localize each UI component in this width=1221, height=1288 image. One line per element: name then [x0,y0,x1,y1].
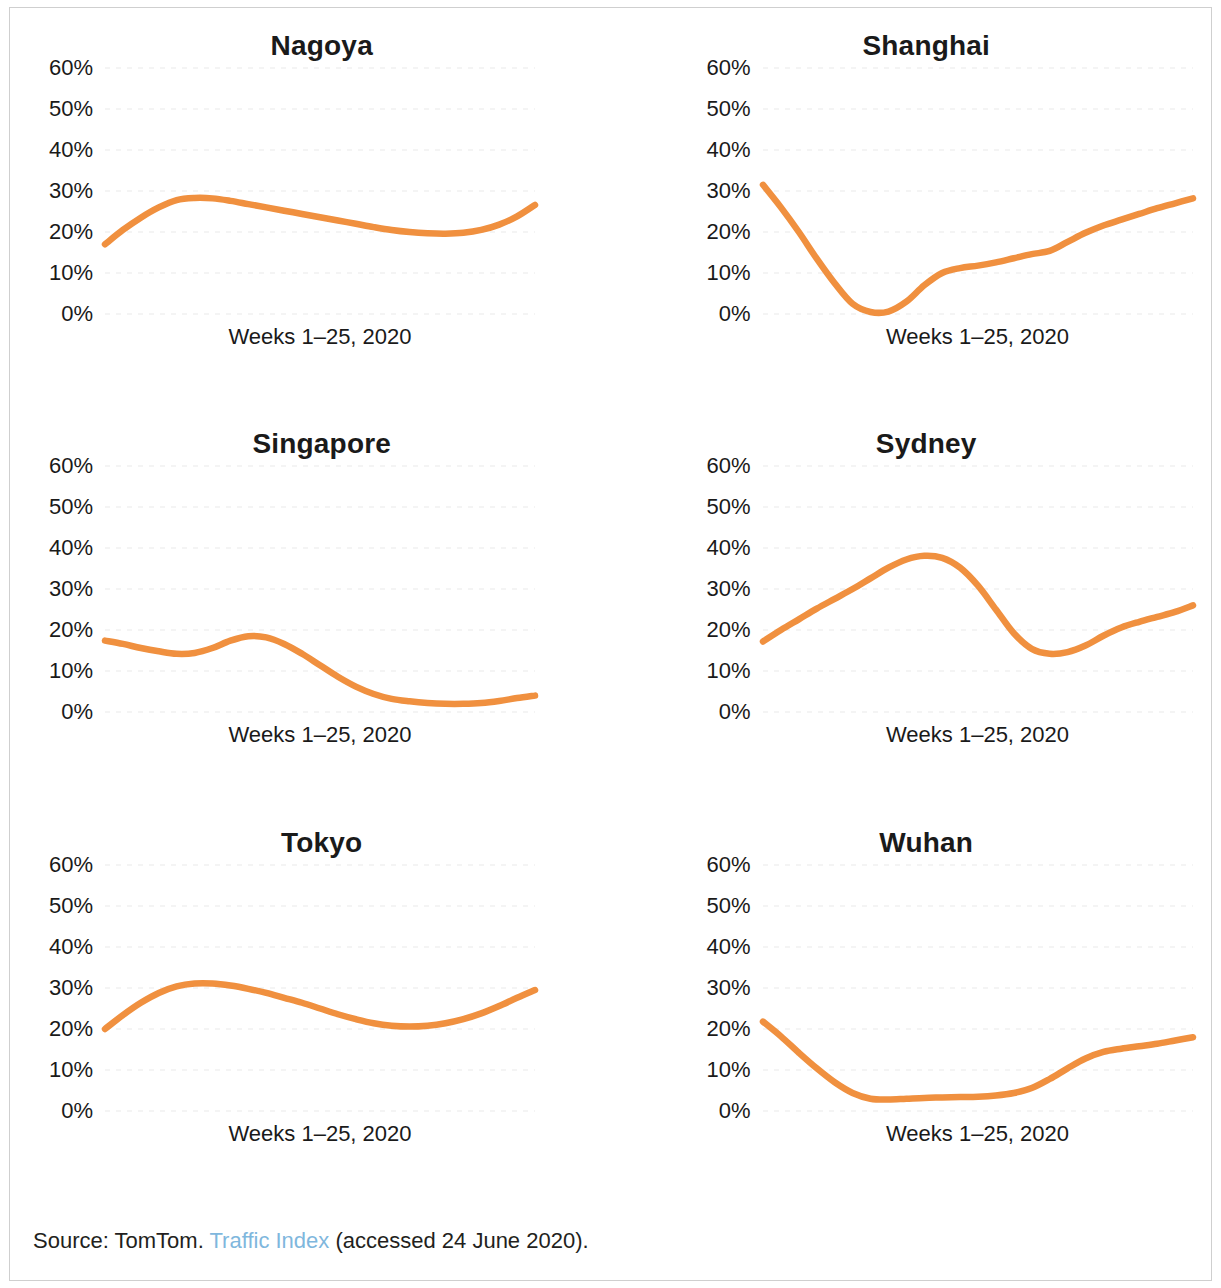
y-tick-label: 20% [49,1016,93,1042]
y-tick-label: 40% [49,535,93,561]
y-tick-label: 50% [49,893,93,919]
x-axis-label-sydney: Weeks 1–25, 2020 [763,722,1193,748]
chart-panel-nagoya: Nagoya 0%10%20%30%40%50%60% Weeks 1–25, … [9,8,611,406]
y-axis-singapore: 0%10%20%30%40%50%60% [9,466,93,712]
y-tick-label: 20% [706,1016,750,1042]
y-tick-label: 10% [49,658,93,684]
y-tick-label: 50% [49,494,93,520]
plot-wrap-singapore: 0%10%20%30%40%50%60% Weeks 1–25, 2020 [9,466,611,776]
series-line-wuhan [763,1021,1193,1099]
chart-svg-nagoya [105,68,535,314]
traffic-index-link[interactable]: Traffic Index [209,1228,329,1253]
y-tick-label: 0% [719,301,751,327]
series-line-shanghai [763,185,1193,313]
y-tick-label: 40% [49,137,93,163]
chart-title-wuhan: Wuhan [611,827,1213,859]
traffic-congestion-small-multiples-figure: Nagoya 0%10%20%30%40%50%60% Weeks 1–25, … [0,0,1221,1288]
y-tick-label: 0% [719,699,751,725]
y-tick-label: 50% [706,893,750,919]
y-tick-label: 0% [61,699,93,725]
series-line-nagoya [105,198,535,244]
y-axis-wuhan: 0%10%20%30%40%50%60% [667,865,751,1111]
y-tick-label: 30% [706,178,750,204]
plot-wrap-tokyo: 0%10%20%30%40%50%60% Weeks 1–25, 2020 [9,865,611,1175]
y-tick-label: 50% [706,494,750,520]
chart-panel-wuhan: Wuhan 0%10%20%30%40%50%60% Weeks 1–25, 2… [611,805,1213,1203]
chart-svg-sydney [763,466,1193,712]
y-axis-nagoya: 0%10%20%30%40%50%60% [9,68,93,314]
chart-panel-tokyo: Tokyo 0%10%20%30%40%50%60% Weeks 1–25, 2… [9,805,611,1203]
y-tick-label: 60% [706,55,750,81]
chart-panel-shanghai: Shanghai 0%10%20%30%40%50%60% Weeks 1–25… [611,8,1213,406]
x-axis-label-wuhan: Weeks 1–25, 2020 [763,1121,1193,1147]
y-tick-label: 60% [49,55,93,81]
plot-area-wuhan [763,865,1193,1111]
plot-area-nagoya [105,68,535,314]
y-tick-label: 40% [706,535,750,561]
chart-grid: Nagoya 0%10%20%30%40%50%60% Weeks 1–25, … [9,8,1212,1203]
y-tick-label: 0% [61,301,93,327]
y-tick-label: 30% [49,576,93,602]
y-tick-label: 30% [49,178,93,204]
plot-area-shanghai [763,68,1193,314]
y-tick-label: 40% [49,934,93,960]
y-axis-tokyo: 0%10%20%30%40%50%60% [9,865,93,1111]
y-tick-label: 0% [719,1098,751,1124]
series-line-tokyo [105,983,535,1029]
y-tick-label: 10% [706,658,750,684]
x-axis-label-shanghai: Weeks 1–25, 2020 [763,324,1193,350]
plot-wrap-sydney: 0%10%20%30%40%50%60% Weeks 1–25, 2020 [611,466,1213,776]
y-axis-sydney: 0%10%20%30%40%50%60% [667,466,751,712]
y-tick-label: 40% [706,934,750,960]
y-tick-label: 20% [49,219,93,245]
y-axis-shanghai: 0%10%20%30%40%50%60% [667,68,751,314]
y-tick-label: 60% [706,852,750,878]
y-tick-label: 20% [706,617,750,643]
y-tick-label: 60% [49,453,93,479]
y-tick-label: 60% [49,852,93,878]
chart-title-tokyo: Tokyo [9,827,611,859]
plot-area-singapore [105,466,535,712]
chart-panel-sydney: Sydney 0%10%20%30%40%50%60% Weeks 1–25, … [611,406,1213,804]
chart-svg-shanghai [763,68,1193,314]
chart-title-nagoya: Nagoya [9,30,611,62]
chart-svg-singapore [105,466,535,712]
y-tick-label: 10% [49,260,93,286]
y-tick-label: 50% [706,96,750,122]
source-prefix: Source: TomTom. [33,1228,209,1253]
chart-svg-wuhan [763,865,1193,1111]
plot-area-sydney [763,466,1193,712]
y-tick-label: 40% [706,137,750,163]
plot-area-tokyo [105,865,535,1111]
y-tick-label: 30% [49,975,93,1001]
x-axis-label-singapore: Weeks 1–25, 2020 [105,722,535,748]
chart-svg-tokyo [105,865,535,1111]
plot-wrap-shanghai: 0%10%20%30%40%50%60% Weeks 1–25, 2020 [611,68,1213,378]
source-suffix: (accessed 24 June 2020). [329,1228,588,1253]
y-tick-label: 30% [706,576,750,602]
source-note: Source: TomTom. Traffic Index (accessed … [33,1228,589,1254]
y-tick-label: 10% [49,1057,93,1083]
series-line-singapore [105,636,535,704]
y-tick-label: 10% [706,260,750,286]
x-axis-label-nagoya: Weeks 1–25, 2020 [105,324,535,350]
y-tick-label: 50% [49,96,93,122]
chart-title-sydney: Sydney [611,428,1213,460]
y-tick-label: 30% [706,975,750,1001]
y-tick-label: 0% [61,1098,93,1124]
series-line-sydney [763,556,1193,654]
y-tick-label: 20% [706,219,750,245]
x-axis-label-tokyo: Weeks 1–25, 2020 [105,1121,535,1147]
chart-title-singapore: Singapore [9,428,611,460]
chart-panel-singapore: Singapore 0%10%20%30%40%50%60% Weeks 1–2… [9,406,611,804]
plot-wrap-wuhan: 0%10%20%30%40%50%60% Weeks 1–25, 2020 [611,865,1213,1175]
chart-title-shanghai: Shanghai [611,30,1213,62]
plot-wrap-nagoya: 0%10%20%30%40%50%60% Weeks 1–25, 2020 [9,68,611,378]
y-tick-label: 20% [49,617,93,643]
y-tick-label: 10% [706,1057,750,1083]
y-tick-label: 60% [706,453,750,479]
